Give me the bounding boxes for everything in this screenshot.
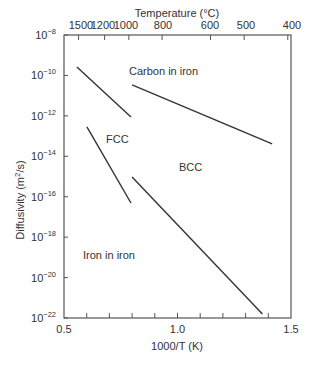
plot-border (64, 35, 291, 318)
top-tick-label: 800 (154, 19, 172, 31)
chart-texts: 10−810−1010−1210−1410−1610−1810−2010−220… (13, 7, 301, 352)
top-tick-label: 500 (237, 19, 255, 31)
y-tick-label: 10−18 (31, 229, 56, 243)
y-tick-label: 10−16 (31, 189, 56, 203)
x-tick-label: 0.5 (56, 323, 71, 335)
x-tick-label: 1.5 (283, 323, 298, 335)
y-tick-label: 10−12 (31, 108, 56, 122)
y-axis-title: Diffusivity (m2/s) (13, 160, 26, 239)
top-axis-title: Temperature (°C) (135, 7, 219, 19)
series-line (132, 85, 272, 144)
annotation-iron-in-iron: Iron in iron (83, 249, 135, 261)
y-tick-label: 10−22 (31, 310, 56, 324)
x-tick-label: 1.0 (170, 323, 185, 335)
top-tick-label: 400 (283, 19, 301, 31)
x-axis-title: 1000/T (K) (151, 340, 203, 352)
y-tick-label: 10−20 (31, 270, 56, 284)
top-tick-label: 1500 (69, 19, 93, 31)
annotation-bcc: BCC (179, 161, 202, 173)
diffusivity-chart: 10−810−1010−1210−1410−1610−1810−2010−220… (0, 0, 311, 365)
series-line (77, 67, 131, 117)
y-tick-label: 10−8 (35, 27, 56, 41)
data-lines (77, 67, 272, 314)
y-tick-label: 10−14 (31, 148, 56, 162)
top-tick-label: 1200 (91, 19, 115, 31)
top-tick-label: 1000 (114, 19, 138, 31)
axis-ticks (64, 35, 288, 318)
y-tick-label: 10−10 (31, 67, 56, 81)
plot-frame (64, 35, 291, 318)
annotation-carbon-in-iron: Carbon in iron (129, 65, 198, 77)
annotation-fcc: FCC (106, 133, 129, 145)
series-line (132, 177, 262, 314)
top-tick-label: 600 (201, 19, 219, 31)
